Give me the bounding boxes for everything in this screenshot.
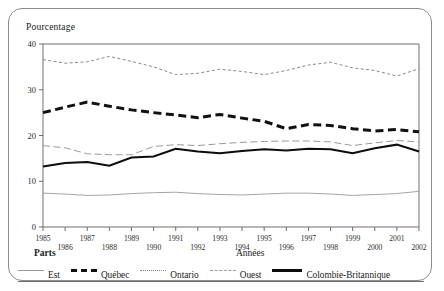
y-tick-label: 30 <box>28 85 37 95</box>
x-tick-label-top: 1999 <box>345 234 360 243</box>
legend-item-ontario[interactable]: Ontario <box>140 270 198 281</box>
series-line-ontario <box>43 56 419 76</box>
y-tick-label: 40 <box>28 39 37 49</box>
x-tick-label-top: 1993 <box>212 234 227 243</box>
y-tick-label: 0 <box>32 222 36 232</box>
legend-block: Parts <box>20 248 422 258</box>
legend-label: Ouest <box>240 270 262 280</box>
x-tick-label-top: 1985 <box>35 234 50 243</box>
x-tick-label-top: 1997 <box>301 234 316 243</box>
series-line-est <box>43 191 419 195</box>
legend-label: Est <box>48 270 60 280</box>
legend-swatch-thin-solid <box>18 270 44 281</box>
legend-swatch-thick-dashed <box>71 269 97 282</box>
legend-item-colombie-britannique[interactable]: Colombie-Britannique <box>272 269 390 282</box>
series-line-colombie-britannique <box>43 145 419 167</box>
legend-title: Parts <box>34 248 422 258</box>
legend-swatch-thick-solid <box>272 269 302 282</box>
legend-label: Ontario <box>170 270 198 280</box>
legend-swatch-dotted <box>140 270 166 281</box>
legend-item-ouest[interactable]: Ouest <box>210 270 262 281</box>
legend-divider <box>18 281 424 282</box>
x-tick-label-top: 1989 <box>124 234 139 243</box>
x-tick-label-top: 1991 <box>168 234 183 243</box>
x-tick-label-top: 1995 <box>257 234 272 243</box>
x-tick-label-top: 2001 <box>389 234 404 243</box>
legend-item-qu-bec[interactable]: Québec <box>71 269 129 282</box>
series-line-qu-bec <box>43 102 419 132</box>
x-tick-label-top: 1987 <box>80 234 95 243</box>
legend-swatch-long-dashed <box>210 270 236 281</box>
y-tick-label: 10 <box>28 176 37 186</box>
legend-label: Colombie-Britannique <box>306 270 390 280</box>
y-tick-label: 20 <box>28 131 37 141</box>
legend-label: Québec <box>101 270 129 280</box>
legend-item-est[interactable]: Est <box>18 270 60 281</box>
